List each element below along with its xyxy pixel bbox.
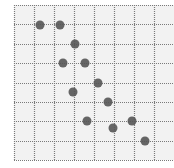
data-point: [71, 40, 80, 49]
data-point: [36, 21, 45, 30]
data-point: [83, 117, 92, 126]
data-point: [69, 88, 78, 97]
data-point: [94, 79, 103, 88]
data-point: [81, 59, 90, 68]
data-point: [104, 98, 113, 107]
data-point: [56, 21, 65, 30]
data-point: [109, 124, 118, 133]
data-point: [141, 137, 150, 146]
scatter-plot: [0, 0, 174, 168]
data-point: [59, 59, 68, 68]
data-point: [128, 117, 137, 126]
